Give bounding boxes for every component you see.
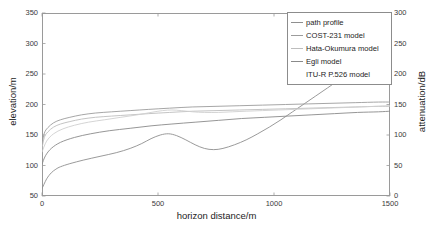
series-line-itu-r-p-526-model bbox=[42, 106, 390, 152]
series-line-cost-231-model bbox=[42, 102, 390, 144]
y-axis-tick-label: 50 bbox=[12, 192, 38, 200]
x-axis-tick-label: 500 bbox=[138, 200, 178, 208]
legend-item-label: Hata-Okumura model bbox=[306, 45, 379, 53]
x-axis-tick-label: 0 bbox=[22, 200, 62, 208]
legend-item: Egli model bbox=[288, 55, 391, 68]
legend-line-swatch bbox=[291, 22, 303, 23]
legend-item: ITU-R P.526 model bbox=[288, 68, 391, 81]
legend-item-label: path profile bbox=[306, 19, 344, 27]
legend-line-swatch bbox=[291, 61, 303, 62]
series-line-egli-model bbox=[42, 111, 390, 164]
y2-axis-tick-label: 250 bbox=[394, 40, 420, 48]
y-axis-right-title: attenuation/dB bbox=[416, 62, 427, 142]
legend-line-swatch bbox=[291, 48, 303, 49]
y2-axis-tick-label: 300 bbox=[394, 9, 420, 17]
legend-item: Hata-Okumura model bbox=[288, 42, 391, 55]
legend-item-label: ITU-R P.526 model bbox=[306, 71, 370, 79]
y2-axis-tick-label: 50 bbox=[394, 162, 420, 170]
legend-item: COST-231 model bbox=[288, 29, 391, 42]
x-axis-title: horizon distance/m bbox=[0, 210, 433, 221]
chart-figure: 50100150200250300350 050100150200250300 … bbox=[0, 0, 433, 235]
y-axis-tick-label: 350 bbox=[12, 9, 38, 17]
y-axis-tick-label: 100 bbox=[12, 162, 38, 170]
legend-line-swatch bbox=[291, 35, 303, 36]
series-group bbox=[42, 73, 390, 189]
legend-item-label: COST-231 model bbox=[306, 32, 365, 40]
y-axis-tick-label: 300 bbox=[12, 40, 38, 48]
legend-item-label: Egli model bbox=[306, 58, 341, 66]
legend-line-swatch bbox=[291, 74, 303, 75]
legend-item: path profile bbox=[288, 16, 391, 29]
x-axis-tick-label: 1500 bbox=[370, 200, 410, 208]
y-axis-left-title: elevation/m bbox=[7, 62, 18, 142]
series-line-path-profile bbox=[42, 73, 390, 189]
x-axis-tick-label: 1000 bbox=[254, 200, 294, 208]
chart-legend: path profile COST-231 model Hata-Okumura… bbox=[287, 12, 392, 85]
